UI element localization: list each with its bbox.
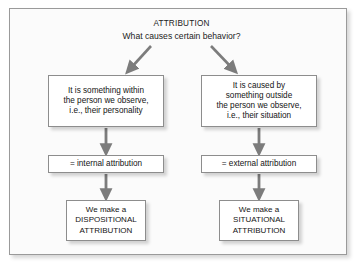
page-subtitle: What causes certain behavior? — [0, 31, 363, 42]
page-title: ATTRIBUTION — [0, 18, 363, 29]
node-right-result: We make a SITUATIONAL ATTRIBUTION — [219, 200, 299, 241]
attribution-diagram: ATTRIBUTION What causes certain behavior… — [0, 0, 363, 272]
node-left-attribution: = internal attribution — [48, 155, 164, 173]
node-right-cause: It is caused by something outside the pe… — [201, 75, 317, 127]
node-right-result-label: We make a SITUATIONAL ATTRIBUTION — [233, 205, 286, 236]
node-left-result: We make a DISPOSITIONAL ATTRIBUTION — [66, 200, 146, 241]
node-left-result-label: We make a DISPOSITIONAL ATTRIBUTION — [75, 205, 136, 236]
node-left-attribution-label: = internal attribution — [70, 159, 142, 169]
node-right-attribution: = external attribution — [201, 155, 317, 173]
diagram-title-block: ATTRIBUTION What causes certain behavior… — [0, 18, 363, 42]
node-right-cause-label: It is caused by something outside the pe… — [216, 81, 301, 122]
node-right-attribution-label: = external attribution — [222, 159, 296, 169]
node-left-cause: It is something within the person we obs… — [48, 75, 164, 127]
node-left-cause-label: It is something within the person we obs… — [63, 86, 148, 117]
